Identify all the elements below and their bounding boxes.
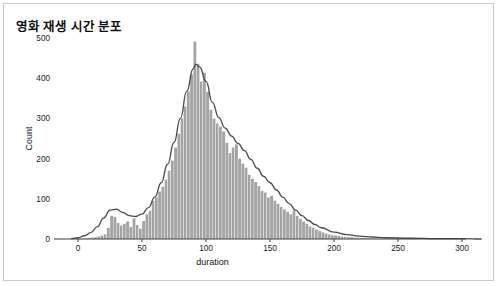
histogram-bar (289, 214, 292, 239)
x-tick-label: 200 (327, 244, 341, 253)
histogram-bar (107, 228, 110, 239)
histogram-bar (238, 159, 241, 239)
histogram-bar (123, 224, 126, 239)
histogram-bar (126, 221, 129, 239)
histogram-bar (273, 200, 276, 239)
histogram-bar (225, 143, 228, 239)
histogram-bar (193, 41, 196, 239)
histogram-bar (219, 126, 222, 239)
histogram-bar (296, 216, 299, 239)
y-axis-title: Count (24, 126, 34, 151)
histogram-bar (148, 211, 151, 239)
histogram-bar (177, 134, 180, 239)
histogram-bar (206, 92, 209, 239)
histogram-bar (305, 224, 308, 239)
x-tick-label: 300 (455, 244, 469, 253)
x-tick-label: 100 (199, 244, 213, 253)
histogram-bar (308, 226, 311, 239)
histogram-bar (171, 160, 174, 239)
histogram-bar (264, 192, 267, 239)
histogram-bar (190, 74, 193, 239)
histogram-bar (216, 123, 219, 239)
histogram-bar (315, 229, 318, 239)
y-tick-label: 100 (36, 195, 50, 204)
histogram-bar (139, 229, 142, 239)
x-tick-label: 50 (137, 244, 147, 253)
y-tick-label: 400 (36, 74, 50, 83)
x-axis-title: duration (196, 257, 229, 267)
histogram-bar (251, 179, 254, 239)
y-tick-label: 200 (36, 155, 50, 164)
histogram-bar (302, 221, 305, 239)
histogram-bar (142, 221, 145, 239)
histogram-bar (212, 118, 215, 239)
histogram-bar (331, 235, 334, 239)
histogram-bar (283, 209, 286, 239)
x-tick-label: 150 (263, 244, 277, 253)
histogram-bar (184, 106, 187, 239)
x-tick-label: 250 (391, 244, 405, 253)
histogram-bar (187, 91, 190, 239)
histogram-bar (152, 201, 155, 239)
x-tick-label: 0 (76, 244, 81, 253)
histogram-bar (161, 187, 164, 239)
y-tick-label: 0 (45, 235, 50, 244)
histogram-bar (260, 191, 263, 239)
x-axis-ticks: 050100150200250300 (76, 239, 470, 253)
histogram-bar (222, 131, 225, 239)
histogram-plot: 050100150200250300 duration 010020030040… (0, 0, 499, 286)
histogram-bar (155, 197, 158, 239)
histogram-bar (180, 118, 183, 239)
histogram-bar (196, 64, 199, 239)
histogram-bar (120, 225, 123, 239)
plot-area: 050100150200250300 duration 010020030040… (0, 0, 499, 286)
histogram-bar (324, 233, 327, 239)
histogram-bar (280, 207, 283, 239)
y-axis-ticks: 0100200300400500 (36, 34, 50, 244)
histogram-bar (276, 204, 279, 239)
histogram-bar (145, 214, 148, 239)
y-tick-label: 300 (36, 114, 50, 123)
histogram-bar (164, 180, 167, 240)
histogram-bar (248, 175, 251, 239)
histogram-bar (286, 212, 289, 239)
histogram-bar (158, 192, 161, 239)
histogram-bar (267, 197, 270, 239)
histogram-bar (328, 234, 331, 239)
y-axis: 0100200300400500 Count (24, 34, 50, 244)
histogram-bar (104, 234, 107, 239)
histogram-bar (270, 196, 273, 239)
histogram-bar (232, 147, 235, 239)
histogram-bar (203, 73, 206, 239)
histogram-bar (132, 218, 135, 239)
histogram-bar (318, 231, 321, 239)
histogram-bar (299, 219, 302, 239)
histogram-bar (321, 232, 324, 239)
histogram-bar (200, 81, 203, 239)
y-tick-label: 500 (36, 34, 50, 43)
histogram-bar (257, 186, 260, 239)
screenshot-root: 영화 재생 시간 분포 050100150200250300 duration … (0, 0, 499, 286)
histogram-bar (113, 217, 116, 239)
histogram-bars (78, 41, 382, 239)
histogram-bar (235, 144, 238, 239)
histogram-bar (129, 227, 132, 239)
histogram-bar (110, 216, 113, 239)
histogram-bar (228, 153, 231, 239)
histogram-bar (209, 110, 212, 239)
histogram-bar (168, 171, 171, 239)
histogram-bar (312, 228, 315, 239)
histogram-bar (244, 167, 247, 239)
histogram-bar (254, 182, 257, 239)
histogram-bar (292, 210, 295, 239)
histogram-bar (136, 225, 139, 239)
histogram-bar (174, 147, 177, 239)
histogram-bar (116, 223, 119, 239)
x-axis: 050100150200250300 duration (54, 239, 469, 267)
histogram-bar (241, 163, 244, 239)
